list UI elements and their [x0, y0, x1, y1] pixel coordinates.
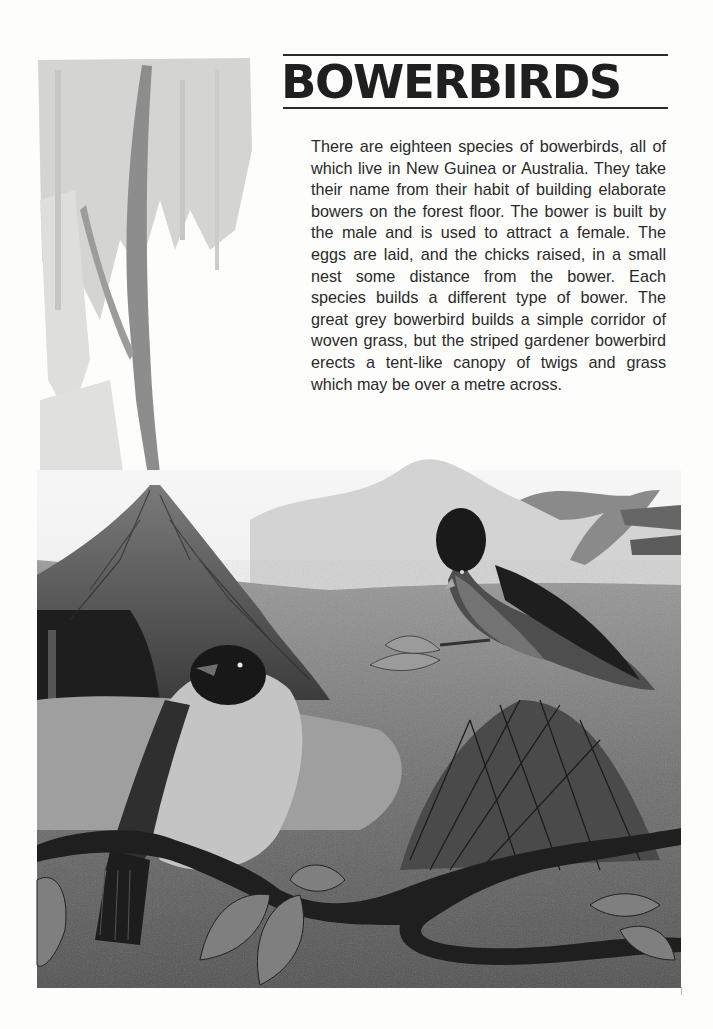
page-mark [681, 987, 682, 995]
foreground-leaves [37, 865, 675, 985]
crested-bowerbird [436, 508, 655, 690]
palm-leaves [520, 490, 681, 565]
front-bowerbird [95, 645, 302, 945]
title-block: BOWERBIRDS [283, 54, 668, 109]
body-paragraph: There are eighteen species of bowerbirds… [311, 136, 666, 395]
grass-bower [400, 700, 660, 870]
twig-leaves [370, 636, 490, 671]
page-title: BOWERBIRDS [281, 60, 667, 104]
vine-branch [37, 828, 681, 965]
tree-trunk [126, 65, 162, 490]
thatched-bower [37, 485, 330, 700]
tree-foliage [38, 58, 252, 520]
